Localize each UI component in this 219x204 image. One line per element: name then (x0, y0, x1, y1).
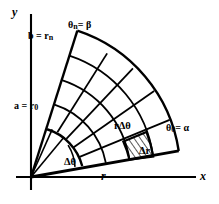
delta-r-label: Δr (139, 146, 150, 157)
y-axis-label: y (12, 6, 17, 18)
fan-ray-a (31, 129, 52, 177)
lower-angle-rest: = α (175, 122, 189, 133)
inner-radius-subscript: 0 (34, 103, 38, 112)
delta-theta-label: Δθ (64, 157, 76, 168)
x-axis-label: x (200, 170, 206, 182)
radius-r-label: r (101, 170, 106, 182)
outer-radius-subscript: n (49, 33, 53, 42)
arc-length-label: rΔθ (114, 121, 131, 132)
outer-radius-text: b = r (28, 30, 49, 41)
inner-radius-label: a = r0 (14, 101, 38, 112)
grid-arc-1 (54, 105, 105, 163)
lower-angle-label: θ0= α (166, 123, 189, 134)
outer-radius-label: b = rn (28, 31, 53, 42)
inner-radius-text: a = r (14, 100, 34, 111)
polar-region-diagram: y x b = rn a = r0 θn= β θ0= α rΔθ Δr Δθ … (0, 0, 219, 204)
upper-angle-rest: = β (78, 19, 91, 30)
polar-grid (31, 31, 179, 177)
upper-angle-label: θn= β (68, 20, 91, 31)
